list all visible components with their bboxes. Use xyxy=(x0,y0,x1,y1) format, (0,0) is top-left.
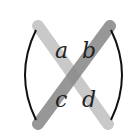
left-bracket xyxy=(25,30,36,120)
diagram-canvas: a b c d xyxy=(0,0,136,140)
entry-c: c xyxy=(55,87,67,112)
entry-d: d xyxy=(82,87,96,112)
entry-b: b xyxy=(82,38,96,63)
determinant-diagram: a b c d xyxy=(0,0,136,140)
right-bracket xyxy=(111,30,122,120)
entry-a: a xyxy=(55,38,68,63)
